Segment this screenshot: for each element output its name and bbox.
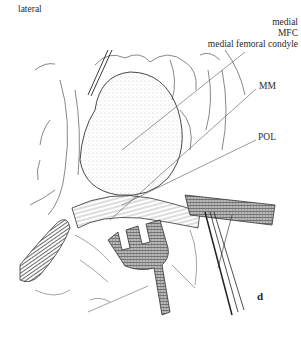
panel-letter: d [257, 290, 263, 302]
left-retractor [20, 220, 70, 282]
label-lateral: lateral [18, 4, 42, 15]
label-pol: POL [258, 132, 276, 143]
medial-femoral-condyle [80, 72, 182, 195]
label-medial: medial [272, 17, 298, 28]
label-mfc: MFC [278, 28, 298, 39]
fork-retractor [108, 220, 170, 315]
label-medial-femoral-condyle: medial femoral condyle [208, 39, 298, 50]
knee-illustration [0, 0, 301, 359]
label-mm: MM [259, 81, 276, 92]
anatomical-figure: lateral medial MFC medial femoral condyl… [0, 0, 301, 359]
meniscus [72, 196, 200, 228]
lateral-soft-tissue [30, 64, 79, 215]
